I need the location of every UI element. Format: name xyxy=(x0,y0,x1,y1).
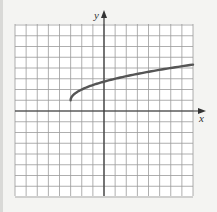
y-axis-label: y xyxy=(93,9,99,21)
function-graph: x y xyxy=(0,0,217,212)
x-axis-label: x xyxy=(198,112,204,124)
